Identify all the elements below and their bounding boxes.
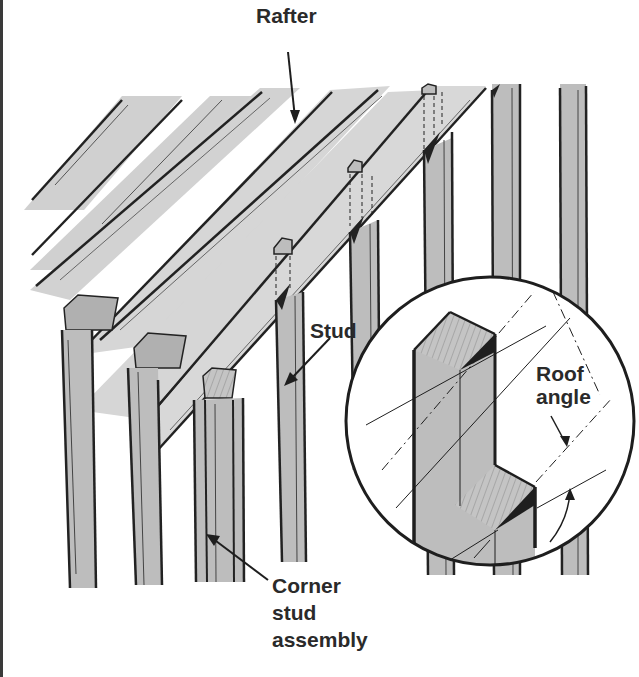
- roof-angle-label: Roof angle: [536, 362, 591, 408]
- roof-angle-label-line2: angle: [536, 385, 591, 408]
- stud-label: Stud: [310, 319, 357, 342]
- corner-stud-assembly-line2: stud: [272, 599, 368, 626]
- corner-stud-assembly-line3: assembly: [272, 626, 368, 653]
- roof-angle-label-line1: Roof: [536, 362, 591, 385]
- inset-detail-circle: [346, 0, 634, 570]
- corner-stud-assembly-line1: Corner: [272, 572, 368, 599]
- corner-stud-assembly-label: Corner stud assembly: [272, 572, 368, 653]
- framing-diagram: Rafter Stud Roof angle Corner stud assem…: [0, 0, 639, 677]
- rafter-label: Rafter: [256, 4, 317, 27]
